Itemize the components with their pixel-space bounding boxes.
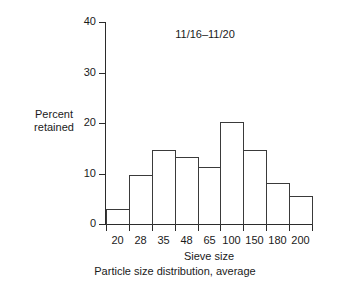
x-tick-label: 200 xyxy=(289,234,312,246)
bar xyxy=(243,150,267,225)
x-tick-label: 100 xyxy=(220,234,243,246)
chart-figure: Percent retained 11/16–11/20 010203040 2… xyxy=(0,0,339,292)
x-tick-label: 180 xyxy=(266,234,289,246)
y-tick-label: 40 xyxy=(66,16,96,27)
x-tick-mark xyxy=(198,225,199,231)
bar xyxy=(152,150,176,225)
y-tick-label: 0 xyxy=(66,218,96,229)
x-tick-mark xyxy=(129,225,130,231)
y-tick-label: 30 xyxy=(66,67,96,78)
bar xyxy=(266,183,290,225)
x-tick-mark xyxy=(106,225,107,231)
x-tick-label: 65 xyxy=(198,234,221,246)
x-tick-label: 35 xyxy=(152,234,175,246)
x-axis-title: Sieve size xyxy=(105,250,313,263)
figure-caption: Particle size distribution, average xyxy=(30,265,320,278)
bar xyxy=(175,157,199,225)
chart-annotation-date-range: 11/16–11/20 xyxy=(150,28,260,41)
y-tick-mark xyxy=(99,123,105,124)
y-tick-label: 10 xyxy=(66,168,96,179)
bar xyxy=(129,175,153,225)
x-tick-mark xyxy=(175,225,176,231)
x-tick-mark xyxy=(266,225,267,231)
x-tick-label: 150 xyxy=(243,234,266,246)
x-tick-label: 28 xyxy=(129,234,152,246)
y-tick-mark xyxy=(99,22,105,23)
bar xyxy=(289,196,313,225)
y-tick-mark xyxy=(99,174,105,175)
y-axis-line xyxy=(105,22,106,225)
x-tick-mark xyxy=(220,225,221,231)
x-tick-mark xyxy=(312,225,313,231)
bar xyxy=(220,122,244,225)
x-tick-mark xyxy=(243,225,244,231)
x-tick-label: 20 xyxy=(106,234,129,246)
y-tick-label: 20 xyxy=(66,117,96,128)
y-tick-mark xyxy=(99,224,105,225)
bar xyxy=(198,167,221,225)
bar xyxy=(106,209,130,225)
x-tick-label: 48 xyxy=(175,234,198,246)
x-tick-mark xyxy=(289,225,290,231)
y-tick-mark xyxy=(99,73,105,74)
x-tick-mark xyxy=(152,225,153,231)
